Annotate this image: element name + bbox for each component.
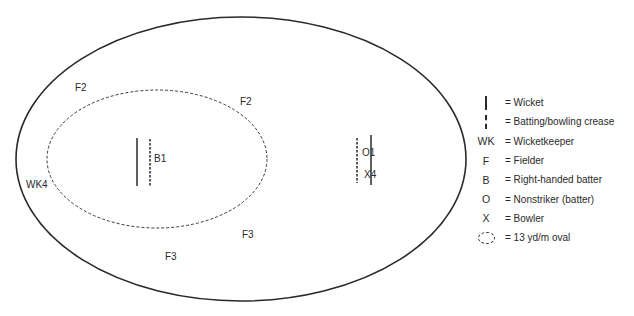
wicketkeeper-label-wk4: WK4 [26, 179, 48, 191]
legend-label: = Wicket [505, 97, 544, 108]
legend-item-batter: B = Right-handed batter [468, 170, 634, 189]
crease-icon [485, 115, 487, 129]
nonstriker-symbol: O [468, 190, 504, 209]
bowler-symbol: X [468, 209, 504, 228]
fielder-label-f3-right: F3 [242, 229, 254, 241]
batter-label-b1: B1 [154, 153, 166, 165]
legend-item-crease: = Batting/bowling crease [468, 112, 634, 131]
legend-item-wicket: = Wicket [468, 93, 634, 112]
legend-label: = Right-handed batter [505, 174, 602, 185]
legend-item-bowler: X = Bowler [468, 209, 634, 228]
legend-label: = 13 yd/m oval [505, 232, 570, 243]
fielder-label-f2-left: F2 [75, 82, 87, 94]
dashed-oval-icon [478, 232, 495, 244]
wicket-icon [485, 96, 487, 110]
legend-item-wicketkeeper: WK = Wicketkeeper [468, 132, 634, 151]
legend-label: = Nonstriker (batter) [505, 194, 594, 205]
legend: = Wicket = Batting/bowling crease WK = W… [468, 93, 634, 247]
nonstriker-label-o1: O1 [362, 147, 375, 159]
wicketkeeper-symbol: WK [468, 132, 504, 151]
fielder-symbol: F [468, 151, 504, 170]
bowler-label-x4: X4 [364, 169, 376, 181]
legend-item-fielder: F = Fielder [468, 151, 634, 170]
batter-symbol: B [468, 170, 504, 189]
outer-boundary [16, 17, 466, 301]
fielder-label-f3-left: F3 [165, 251, 177, 263]
legend-label: = Batting/bowling crease [505, 116, 614, 127]
legend-item-oval: = 13 yd/m oval [468, 228, 634, 247]
legend-label: = Fielder [505, 155, 544, 166]
legend-label: = Wicketkeeper [505, 136, 574, 147]
fielder-label-f2-right: F2 [240, 96, 252, 108]
legend-item-nonstriker: O = Nonstriker (batter) [468, 189, 634, 208]
legend-label: = Bowler [505, 213, 544, 224]
